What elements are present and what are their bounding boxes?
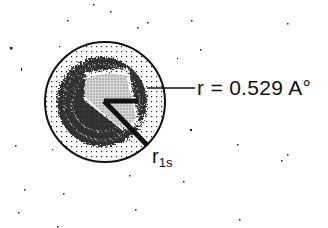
r1s-label: r1s xyxy=(152,145,172,168)
radius-value-label: r = 0.529 A° xyxy=(197,76,311,100)
r1s-main: r xyxy=(152,145,159,167)
r1s-subscript: 1s xyxy=(159,155,173,170)
orbital-diagram xyxy=(0,0,328,228)
